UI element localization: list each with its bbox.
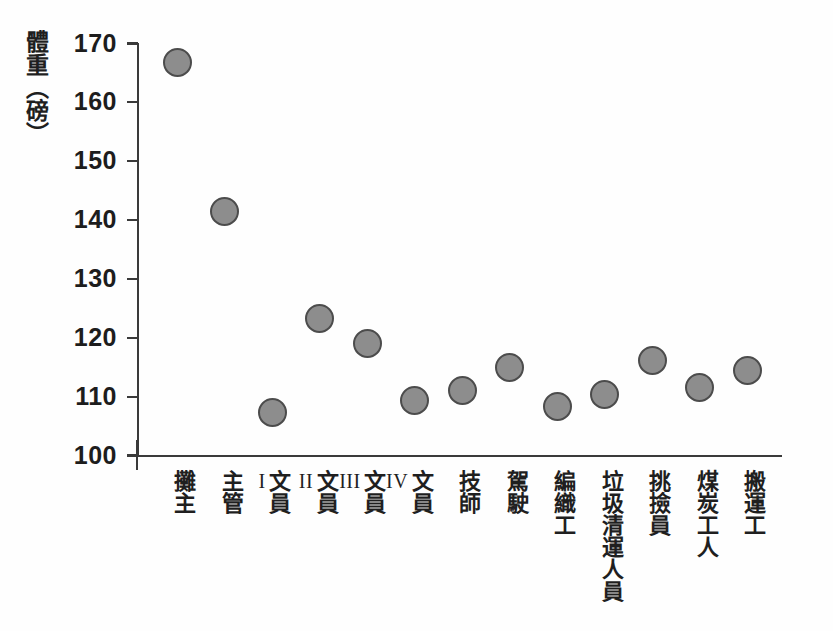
x-category-label-text: 主管 bbox=[218, 470, 243, 514]
x-category-label: 文員IV bbox=[398, 470, 432, 514]
x-category-label: 煤炭工人 bbox=[683, 470, 717, 558]
x-category-label-text: 挑撿員 bbox=[645, 470, 670, 536]
y-tick-mark bbox=[127, 396, 138, 398]
x-category-label-text: 煤炭工人 bbox=[693, 470, 718, 558]
y-tick-mark bbox=[127, 278, 138, 280]
y-tick-label: 130 bbox=[55, 266, 117, 291]
data-point bbox=[685, 373, 714, 402]
x-category-label-roman: III bbox=[339, 471, 360, 492]
y-tick-mark bbox=[127, 101, 138, 103]
data-point bbox=[590, 380, 619, 409]
data-point bbox=[353, 329, 382, 358]
x-category-label-text: 文員 bbox=[313, 470, 338, 514]
data-point bbox=[448, 376, 477, 405]
x-category-label-roman: II bbox=[299, 471, 313, 492]
x-category-label: 攤主 bbox=[160, 470, 194, 514]
y-tick-label: 140 bbox=[55, 207, 117, 232]
data-point bbox=[733, 356, 762, 385]
x-category-label-text: 技師 bbox=[455, 470, 480, 514]
x-category-label: 編織工 bbox=[540, 470, 574, 536]
x-category-label-text: 文員 bbox=[265, 470, 290, 514]
x-category-label: 文員III bbox=[350, 470, 384, 514]
x-category-label: 文員II bbox=[303, 470, 337, 514]
data-point bbox=[258, 398, 287, 427]
data-point bbox=[163, 48, 192, 77]
y-tick-mark bbox=[127, 219, 138, 221]
y-tick-mark bbox=[127, 337, 138, 339]
y-tick-label: 150 bbox=[55, 148, 117, 173]
y-tick-label: 160 bbox=[55, 89, 117, 114]
x-category-label-text: 文員 bbox=[360, 470, 385, 514]
y-tick-mark bbox=[127, 454, 138, 456]
x-category-label: 文員I bbox=[255, 470, 289, 514]
y-tick-label: 170 bbox=[55, 31, 117, 56]
x-category-label: 搬運工 bbox=[730, 470, 764, 536]
x-category-label: 垃圾清運人員 bbox=[588, 470, 622, 602]
x-category-label-text: 垃圾清運人員 bbox=[598, 470, 623, 602]
data-point bbox=[305, 304, 334, 333]
y-tick-mark bbox=[127, 42, 138, 44]
x-category-label-text: 攤主 bbox=[170, 470, 195, 514]
x-category-label-text: 編織工 bbox=[550, 470, 575, 536]
x-category-label-text: 文員 bbox=[408, 470, 433, 514]
data-point bbox=[495, 353, 524, 382]
data-point bbox=[400, 386, 429, 415]
x-category-label-roman: IV bbox=[386, 471, 408, 492]
y-tick-mark bbox=[127, 160, 138, 162]
x-category-label: 駕駛 bbox=[493, 470, 527, 514]
x-category-label: 挑撿員 bbox=[635, 470, 669, 536]
y-tick-label: 110 bbox=[55, 384, 117, 409]
data-point bbox=[210, 197, 239, 226]
x-axis-line bbox=[137, 455, 782, 457]
data-point bbox=[543, 392, 572, 421]
x-category-label: 技師 bbox=[445, 470, 479, 514]
x-category-label-text: 駕駛 bbox=[503, 470, 528, 514]
x-category-label-text: 搬運工 bbox=[740, 470, 765, 536]
x-category-label: 主管 bbox=[208, 470, 242, 514]
x-category-label-roman: I bbox=[259, 471, 266, 492]
y-tick-label: 120 bbox=[55, 325, 117, 350]
y-tick-label: 100 bbox=[55, 443, 117, 468]
weight-by-occupation-scatter-chart: 體重（磅） 170160150140130120110100攤主主管文員I文員I… bbox=[0, 0, 833, 631]
data-point bbox=[638, 346, 667, 375]
